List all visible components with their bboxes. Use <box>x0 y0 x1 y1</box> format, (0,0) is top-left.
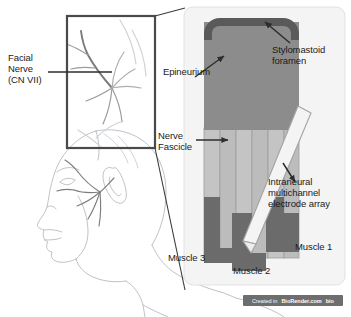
watermark-brand: BioRender.com <box>281 298 321 304</box>
facial-nerve-branches <box>57 160 114 226</box>
watermark-prefix: Created in <box>252 298 277 304</box>
inset-nerve-tracing <box>66 20 146 148</box>
label-facial-nerve: Facial Nerve (CN VII) <box>8 52 54 85</box>
label-muscle-3: Muscle 3 <box>168 252 222 263</box>
biorender-watermark: Created in BioRender.com bio <box>243 295 343 306</box>
figure-canvas: Facial Nerve (CN VII) Epineurium Styloma… <box>0 0 351 317</box>
label-nerve-fascicle: Nerve Fascicle <box>158 130 202 152</box>
label-epineurium: Epineurium <box>150 66 210 77</box>
watermark-badge: bio <box>326 298 334 304</box>
label-electrode-array: Intraneural multichannel electrode array <box>268 176 350 209</box>
label-muscle-1: Muscle 1 <box>295 241 347 252</box>
nerve-trunk-group <box>204 18 299 130</box>
inset-region-box <box>67 16 155 148</box>
label-stylomastoid-foramen: Stylomastoid foramen <box>272 44 348 66</box>
label-muscle-2: Muscle 2 <box>233 265 287 276</box>
